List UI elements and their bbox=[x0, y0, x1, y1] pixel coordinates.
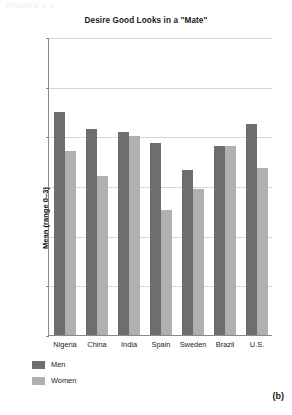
bar-group bbox=[113, 38, 145, 335]
y-axis-tick bbox=[46, 336, 49, 337]
bar-group bbox=[209, 38, 241, 335]
x-axis-label-brazil: Brazil bbox=[216, 340, 234, 349]
legend-swatch-women-icon bbox=[32, 377, 45, 385]
chart-legend: Men Women bbox=[32, 360, 76, 392]
figure-number-label: FIGURE 4.6 bbox=[6, 1, 55, 10]
bar-india-men bbox=[118, 132, 129, 335]
bar-brazil-women bbox=[225, 146, 236, 335]
bar-group bbox=[241, 38, 273, 335]
bar-china-women bbox=[97, 176, 108, 335]
bar-group bbox=[81, 38, 113, 335]
bar-brazil-men bbox=[214, 146, 225, 335]
chart-title: Desire Good Looks in a "Mate" bbox=[0, 16, 292, 25]
x-axis-label-spain: Spain bbox=[152, 340, 171, 349]
x-axis-label-nigeria: Nigeria bbox=[53, 340, 76, 349]
chart-plot-area: Mean (range 0–3) 00.511.522.53NigeriaChi… bbox=[48, 38, 272, 336]
legend-swatch-men-icon bbox=[32, 361, 45, 369]
legend-item-women: Women bbox=[32, 376, 76, 385]
bar-group bbox=[177, 38, 209, 335]
legend-label-women: Women bbox=[51, 376, 76, 385]
bar-us-women bbox=[257, 168, 268, 335]
bar-nigeria-women bbox=[65, 151, 76, 335]
bar-sweden-men bbox=[182, 170, 193, 335]
bar-spain-women bbox=[161, 210, 172, 335]
bar-china-men bbox=[86, 129, 97, 335]
bar-sweden-women bbox=[193, 189, 204, 335]
legend-label-men: Men bbox=[51, 360, 65, 369]
bar-india-women bbox=[129, 136, 140, 335]
x-axis-label-india: India bbox=[121, 340, 137, 349]
bar-group bbox=[49, 38, 81, 335]
bar-nigeria-men bbox=[54, 112, 65, 336]
x-axis-label-china: China bbox=[87, 340, 106, 349]
bar-us-men bbox=[246, 124, 257, 335]
x-axis-label-us: U.S. bbox=[250, 340, 264, 349]
bar-group bbox=[145, 38, 177, 335]
x-axis-label-sweden: Sweden bbox=[180, 340, 207, 349]
bar-spain-men bbox=[150, 143, 161, 335]
panel-label: (b) bbox=[273, 391, 285, 401]
legend-item-men: Men bbox=[32, 360, 76, 369]
